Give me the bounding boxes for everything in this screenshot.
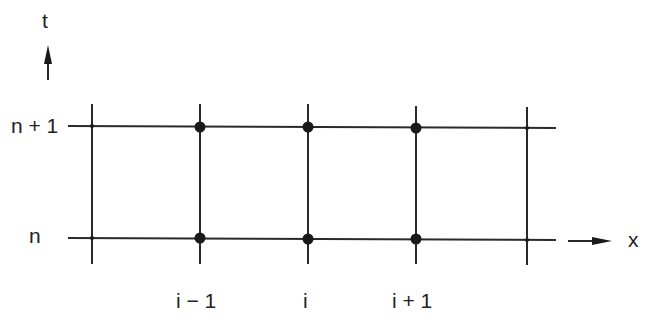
x-axis-label: x [628, 229, 639, 250]
node-i-plus-1-n [411, 234, 422, 245]
x-axis-arrow-icon [568, 237, 612, 245]
column-label-i-plus-1: i + 1 [392, 290, 432, 311]
stencil-diagram: t x n + 1 n i − 1 i i + 1 [0, 0, 657, 324]
t-axis-arrow-icon [44, 45, 52, 80]
node-i-n-plus-1 [303, 122, 314, 133]
node-i-minus-1-n [195, 233, 206, 244]
node-i-minus-1-n-plus-1 [195, 122, 206, 133]
column-label-i: i [303, 290, 308, 311]
column-label-i-minus-1: i − 1 [176, 290, 216, 311]
junction-dot [525, 126, 529, 130]
t-axis-label: t [42, 10, 48, 31]
row-label-n-plus-1: n + 1 [11, 115, 58, 136]
row-label-n: n [29, 225, 41, 246]
junction-dot [525, 238, 529, 242]
junction-dot [90, 236, 94, 240]
grid-canvas [0, 0, 657, 324]
junction-dot [90, 124, 94, 128]
node-i-plus-1-n-plus-1 [411, 123, 422, 134]
node-i-n [303, 234, 314, 245]
